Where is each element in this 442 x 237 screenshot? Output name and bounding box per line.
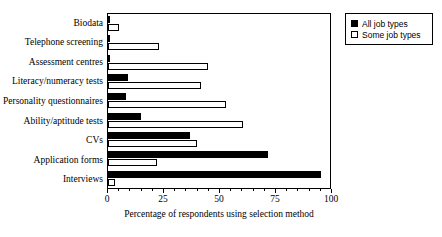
bar-group — [108, 33, 330, 52]
bar — [108, 43, 159, 50]
bar — [108, 93, 126, 100]
x-tick-label: 75 — [270, 194, 280, 205]
x-tick-major — [219, 189, 220, 193]
category-label: Personality questionnaires — [3, 91, 106, 111]
category-label: Application forms — [34, 150, 106, 170]
x-tick-minor — [197, 189, 198, 191]
category-axis: Biodata Telephone screening Assessment c… — [0, 13, 106, 189]
x-tick-minor — [297, 189, 298, 191]
bar — [108, 132, 190, 139]
x-tick-label: 0 — [105, 194, 110, 205]
bar — [108, 24, 119, 31]
bar-group — [108, 14, 330, 33]
legend-label: All job types — [362, 19, 408, 29]
bar — [108, 74, 128, 81]
bar-group — [108, 72, 330, 91]
x-tick-minor — [241, 189, 242, 191]
bar-chart: Biodata Telephone screening Assessment c… — [0, 0, 442, 237]
hollow-square-icon — [351, 31, 358, 38]
legend-item-some-job-types: Some job types — [351, 29, 427, 40]
legend-label: Some job types — [362, 30, 421, 40]
bars-layer — [108, 14, 330, 188]
bar — [108, 171, 321, 178]
bar-group — [108, 53, 330, 72]
bar — [108, 35, 110, 42]
bar-group — [108, 149, 330, 168]
x-axis-title: Percentage of respondents using selectio… — [107, 209, 331, 220]
bar — [108, 179, 115, 186]
category-label: Assessment centres — [29, 52, 106, 72]
x-tick-major — [163, 189, 164, 193]
filled-square-icon — [351, 20, 358, 27]
x-tick-label: 50 — [214, 194, 224, 205]
category-label: CVs — [86, 130, 106, 150]
x-tick-minor — [118, 189, 119, 191]
bar — [108, 151, 268, 158]
category-label: Literacy/numeracy tests — [12, 72, 106, 92]
x-tick-minor — [185, 189, 186, 191]
x-tick-minor — [141, 189, 142, 191]
x-tick-minor — [264, 189, 265, 191]
bar — [108, 159, 157, 166]
category-label: Interviews — [63, 169, 106, 189]
bar — [108, 121, 243, 128]
bar-group — [108, 111, 330, 130]
bar — [108, 16, 110, 23]
x-tick-minor — [309, 189, 310, 191]
plot-area — [107, 13, 331, 189]
bar — [108, 101, 226, 108]
bar — [108, 82, 201, 89]
x-tick-minor — [129, 189, 130, 191]
bar — [108, 113, 141, 120]
bar-group — [108, 91, 330, 110]
x-tick-minor — [253, 189, 254, 191]
x-tick-minor — [208, 189, 209, 191]
legend-item-all-job-types: All job types — [351, 18, 427, 29]
chart-legend: All job types Some job types — [345, 13, 433, 45]
x-axis-tick-labels: 0255075100 — [107, 194, 331, 206]
bar-group — [108, 130, 330, 149]
category-label: Ability/aptitude tests — [24, 111, 106, 131]
x-tick-minor — [152, 189, 153, 191]
x-tick-minor — [174, 189, 175, 191]
x-tick-label: 100 — [324, 194, 338, 205]
x-tick-major — [275, 189, 276, 193]
bar — [108, 140, 197, 147]
x-tick-minor — [230, 189, 231, 191]
x-tick-minor — [320, 189, 321, 191]
bar-group — [108, 169, 330, 188]
x-tick-label: 25 — [158, 194, 168, 205]
x-tick-major — [107, 189, 108, 193]
bar — [108, 63, 208, 70]
category-label: Biodata — [73, 13, 106, 33]
category-label: Telephone screening — [25, 33, 106, 53]
x-tick-minor — [286, 189, 287, 191]
bar — [108, 55, 110, 62]
x-tick-major — [331, 189, 332, 193]
